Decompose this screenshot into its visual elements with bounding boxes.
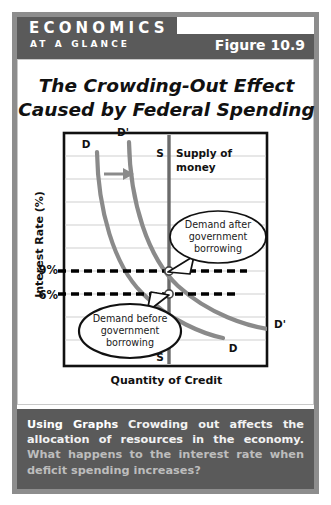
curve-label-dprime-top: D'	[117, 126, 129, 138]
caption-lead: Using Graphs	[27, 418, 118, 431]
curve-label-d-right: D	[229, 342, 238, 354]
brand-bar: ECONOMICS AT A GLANCE	[17, 17, 177, 59]
bubble-before-line3: borrowing	[106, 337, 154, 348]
bubble-after-line1: Demand after	[185, 219, 251, 230]
supply-label-top: S	[156, 147, 164, 159]
supply-label-bottom: S	[156, 351, 164, 363]
bubble-after-line2: government	[189, 231, 248, 242]
supply-text-line1: Supply of	[176, 147, 232, 159]
curve-label-dprime-right: D'	[274, 318, 286, 330]
figure-number-bar: Figure 10.9	[172, 34, 314, 59]
curve-label-d-top: D	[82, 138, 91, 150]
bubble-before-line1: Demand before	[93, 313, 168, 324]
brand-title: ECONOMICS	[29, 19, 169, 37]
figure-card: The Crowding-Out Effect Caused by Federa…	[17, 59, 314, 405]
caption-question: What happens to the interest rate when d…	[27, 448, 304, 476]
figure-container: Figure 10.9 ECONOMICS AT A GLANCE The Cr…	[0, 0, 331, 505]
figure-number: Figure 10.9	[215, 37, 305, 53]
chart-area: Interest Rate (%) 9% 6% Quantity of Cred…	[18, 60, 315, 406]
caption-panel: Using Graphs Crowding out affects the al…	[17, 409, 314, 489]
chart-svg: Demand after government borrowing Demand…	[18, 60, 315, 406]
supply-text-line2: money	[176, 161, 216, 173]
bubble-after-line3: borrowing	[194, 243, 242, 254]
caption-text: Using Graphs Crowding out affects the al…	[27, 417, 304, 478]
brand-subtitle: AT A GLANCE	[30, 39, 130, 49]
bubble-before-line2: government	[101, 325, 160, 336]
